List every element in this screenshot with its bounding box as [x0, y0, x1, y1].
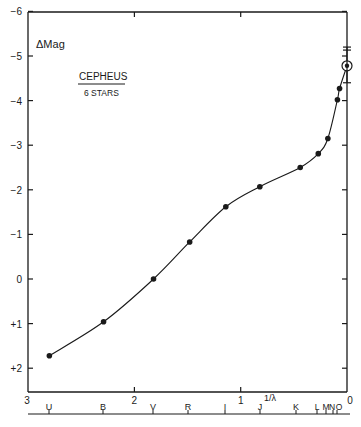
y-tick-label: +1 — [11, 319, 23, 330]
chart-subtitle: 6 STARS — [84, 88, 119, 98]
data-point — [151, 276, 157, 282]
data-point — [223, 204, 229, 210]
band-label: U — [46, 402, 53, 412]
y-tick-label: +2 — [11, 363, 23, 374]
chart-title: CEPHEUS — [79, 71, 128, 82]
x-tick-label: 0 — [347, 395, 353, 406]
y-tick-label: −6 — [11, 6, 23, 17]
y-tick-label: −5 — [11, 51, 23, 62]
extinction-curve — [49, 66, 347, 356]
band-label: K — [293, 402, 299, 412]
data-point — [325, 136, 331, 142]
y-axis-title: ΔMag — [36, 38, 65, 50]
band-label: N — [329, 402, 335, 412]
data-point — [47, 353, 53, 359]
data-point — [257, 184, 263, 190]
band-label: B — [100, 402, 106, 412]
x-axis-ticks — [134, 12, 240, 392]
data-point — [297, 165, 303, 171]
data-point — [187, 239, 193, 245]
x-tick-label: 2 — [132, 395, 138, 406]
x-axis-title: 1/λ — [264, 393, 277, 403]
y-tick-label: −3 — [11, 140, 23, 151]
data-point — [315, 151, 321, 157]
y-tick-label: −4 — [11, 96, 23, 107]
data-point — [101, 319, 107, 325]
band-label: J — [258, 402, 263, 412]
band-label: O — [336, 402, 343, 412]
data-point — [335, 97, 341, 103]
data-points — [47, 61, 352, 359]
band-label: I — [224, 402, 227, 412]
band-label: V — [150, 402, 156, 412]
y-axis-labels: −6−5−4−3−2−10+1+2 — [11, 6, 23, 374]
data-point — [337, 86, 343, 92]
x-tick-label: 3 — [24, 395, 30, 406]
y-tick-label: −1 — [11, 229, 23, 240]
band-labels: UBVRIJKLMNO — [46, 402, 343, 412]
y-axis-ticks — [28, 11, 347, 368]
band-label: L — [315, 402, 320, 412]
extinction-chart: −6−5−4−3−2−10+1+2 3210 UBVRIJKLMNO ΔMag … — [0, 0, 361, 427]
y-tick-label: 0 — [16, 274, 22, 285]
x-tick-label: 1 — [238, 395, 244, 406]
y-tick-label: −2 — [11, 185, 23, 196]
plot-frame — [28, 12, 347, 392]
band-label: R — [185, 402, 192, 412]
